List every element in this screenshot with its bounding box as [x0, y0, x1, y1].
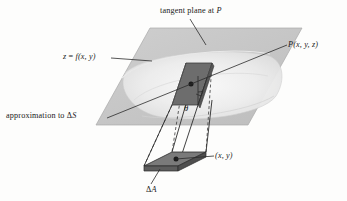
label-base-point-xy: (x, y)	[215, 152, 233, 160]
label-angle-theta: θ	[184, 104, 188, 113]
label-base-point-text: (x, y)	[215, 151, 233, 160]
figure-canvas: tangent plane at P z = f(x, y) approxima…	[0, 0, 347, 201]
label-approximation-to-delta-s: approximation to ΔS	[6, 112, 76, 120]
label-theta-symbol: θ	[184, 103, 188, 113]
delta-a-front-face	[144, 166, 178, 171]
label-approximation-text: approximation to	[6, 111, 67, 120]
label-delta-a: ΔA	[146, 186, 157, 194]
label-tangent-plane-text: tangent plane at	[160, 6, 216, 15]
diagram-svg	[0, 0, 347, 201]
label-surface-equation: z = f(x, y)	[63, 53, 96, 61]
label-tangent-plane-var: P	[216, 6, 221, 15]
label-point-p-args: (x, y, z)	[293, 40, 318, 49]
label-surface-eq-args: (x, y)	[78, 52, 96, 61]
label-approximation-var: S	[72, 111, 76, 120]
label-surface-eq-rel: =	[66, 52, 75, 61]
label-tangent-plane: tangent plane at P	[160, 7, 222, 15]
label-point-p: P(x, y, z)	[288, 41, 318, 49]
label-delta-a-var: A	[151, 185, 156, 194]
